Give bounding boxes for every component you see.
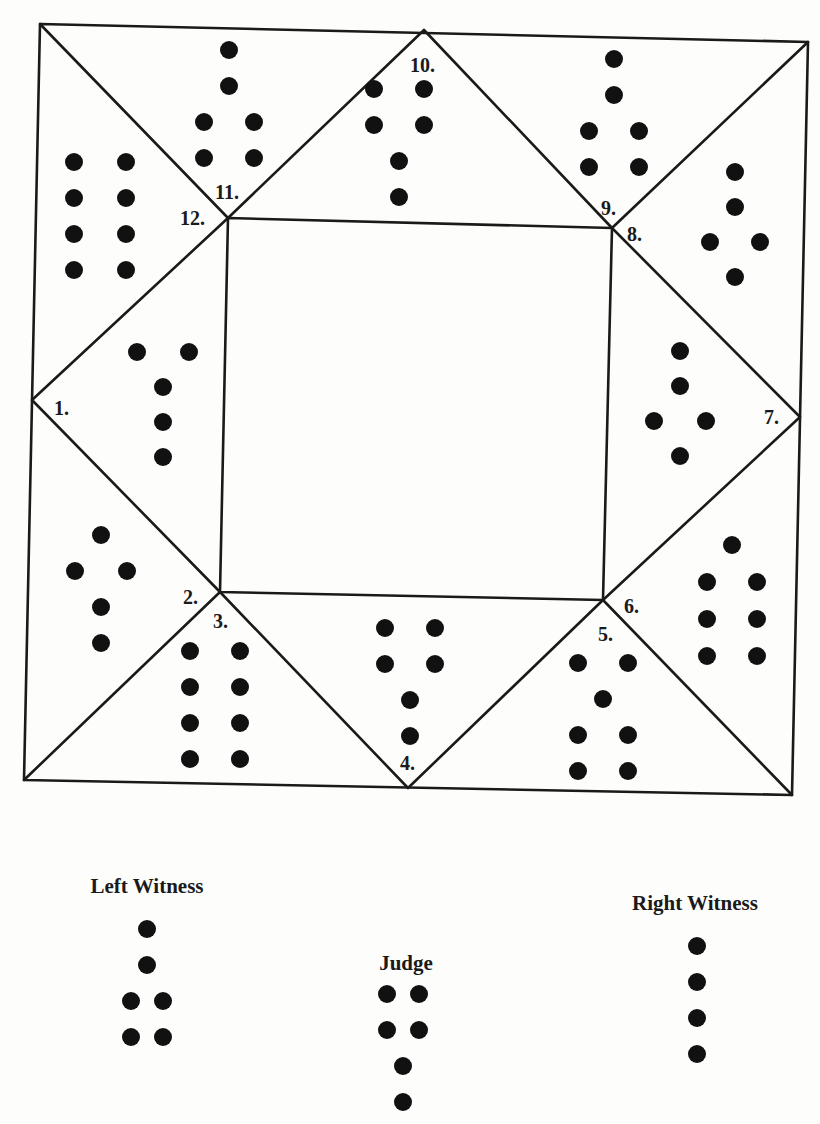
house-12-dot-row1-left <box>65 153 83 171</box>
house-9-dot-row3-left <box>580 122 598 140</box>
house-4-dot-row2-right <box>426 655 444 673</box>
house-10-dot-row2-right <box>415 116 433 134</box>
right-witness-dot-row4 <box>688 1045 706 1063</box>
judge-dot-row1-right <box>410 985 428 1003</box>
house-5-dot-row4-left <box>569 762 587 780</box>
left-witness-dot-row2 <box>138 956 156 974</box>
judge-dot-row4 <box>394 1093 412 1111</box>
house-2-dot-row4 <box>92 634 110 652</box>
right-witness-dot-row2 <box>688 973 706 991</box>
house-8-dot-row3-right <box>751 233 769 251</box>
left-witness-dot-row3-left <box>122 992 140 1010</box>
house-5-dot-row3-right <box>619 726 637 744</box>
house-12-dot-row3-right <box>117 225 135 243</box>
house-label-6: 6. <box>624 595 639 617</box>
house-12-dot-row4-left <box>65 261 83 279</box>
judge-dot-row3 <box>394 1057 412 1075</box>
house-2-dot-row3 <box>92 598 110 616</box>
house-11-dot-row1 <box>220 41 238 59</box>
house-1-dot-row1-right <box>180 343 198 361</box>
house-9-dot-row1 <box>605 50 623 68</box>
house-label-4: 4. <box>400 752 415 774</box>
house-1-dot-row1-left <box>128 343 146 361</box>
right-witness-dot-row1 <box>688 937 706 955</box>
house-10-dot-row4 <box>390 188 408 206</box>
house-11-dot-row3-left <box>195 113 213 131</box>
chart-frame <box>24 24 808 795</box>
house-10-dot-row3 <box>390 152 408 170</box>
house-11-dot-row3-right <box>245 113 263 131</box>
house-label-2: 2. <box>183 586 198 608</box>
house-4-dot-row1-right <box>426 619 444 637</box>
house-label-8: 8. <box>627 223 642 245</box>
house-12-dot-row2-left <box>65 189 83 207</box>
house-3-dot-row4-left <box>181 750 199 768</box>
left-witness-dot-row4-left <box>122 1028 140 1046</box>
geomancy-chart: 1. 2. 3. 4. 5. 6. 7. 8. 9. 10. 11. 12. L… <box>0 0 820 1124</box>
house-1-dot-row3 <box>154 413 172 431</box>
house-label-12: 12. <box>180 207 205 229</box>
house-4-dot-row4 <box>401 727 419 745</box>
house-8-dot-row3-left <box>701 233 719 251</box>
house-3-dot-row1-right <box>231 642 249 660</box>
house-9-dot-row3-right <box>630 122 648 140</box>
right-witness-title: Right Witness <box>632 891 758 915</box>
house-5-dot-row3-left <box>569 726 587 744</box>
house-8-dot-row1 <box>726 163 744 181</box>
house-7-dot-row4 <box>671 447 689 465</box>
court-labels: Left Witness Judge Right Witness <box>91 874 758 975</box>
house-3-dot-row3-right <box>231 714 249 732</box>
right-witness-dot-row3 <box>688 1009 706 1027</box>
house-5-dot-row1-left <box>569 654 587 672</box>
judge-title: Judge <box>379 951 433 975</box>
house-10-dot-row1-right <box>415 80 433 98</box>
house-7-dot-row2 <box>671 377 689 395</box>
house-label-9: 9. <box>601 197 616 219</box>
house-label-10: 10. <box>410 54 435 76</box>
house-3-dot-row2-left <box>181 678 199 696</box>
house-11-dot-row4-right <box>245 149 263 167</box>
house-2-dot-row1 <box>92 526 110 544</box>
house-6-dot-row1 <box>723 536 741 554</box>
house-9-dot-row2 <box>605 86 623 104</box>
house-5-dot-row1-right <box>619 654 637 672</box>
house-2-dot-row2-right <box>118 562 136 580</box>
house-label-3: 3. <box>213 610 228 632</box>
house-5-dot-row2 <box>594 690 612 708</box>
house-1-dot-row4 <box>154 448 172 466</box>
house-10-dot-row2-left <box>365 116 383 134</box>
house-12-dot-row3-left <box>65 225 83 243</box>
house-11-dot-row4-left <box>195 149 213 167</box>
left-witness-dot-row4-right <box>154 1028 172 1046</box>
house-6-dot-row2-right <box>748 573 766 591</box>
house-9-dot-row4-left <box>580 158 598 176</box>
outer-square <box>24 24 808 795</box>
inner-square <box>220 218 612 600</box>
judge-dot-row1-left <box>378 985 396 1003</box>
house-label-11: 11. <box>215 181 239 203</box>
house-6-dot-row4-left <box>698 647 716 665</box>
house-7-dot-row3-right <box>697 412 715 430</box>
house-4-dot-row1-left <box>376 619 394 637</box>
left-witness-dot-row3-right <box>154 992 172 1010</box>
house-6-dot-row3-left <box>698 610 716 628</box>
house-12-dot-row1-right <box>117 153 135 171</box>
house-7-dot-row1 <box>671 342 689 360</box>
house-8-dot-row2 <box>726 198 744 216</box>
house-4-dot-row2-left <box>376 655 394 673</box>
house-3-dot-row1-left <box>181 642 199 660</box>
house-label-5: 5. <box>598 623 613 645</box>
house-10-dot-row1-left <box>365 80 383 98</box>
house-1-dot-row2 <box>154 378 172 396</box>
house-11-dot-row2 <box>220 77 238 95</box>
house-3-dot-row3-left <box>181 714 199 732</box>
left-witness-dot-row1 <box>138 920 156 938</box>
judge-dot-row2-left <box>378 1021 396 1039</box>
left-witness-title: Left Witness <box>91 874 204 898</box>
house-12-dot-row4-right <box>117 261 135 279</box>
house-3-dot-row2-right <box>231 678 249 696</box>
house-7-dot-row3-left <box>645 412 663 430</box>
house-6-dot-row3-right <box>748 610 766 628</box>
house-label-1: 1. <box>54 397 69 419</box>
house-2-dot-row2-left <box>66 562 84 580</box>
